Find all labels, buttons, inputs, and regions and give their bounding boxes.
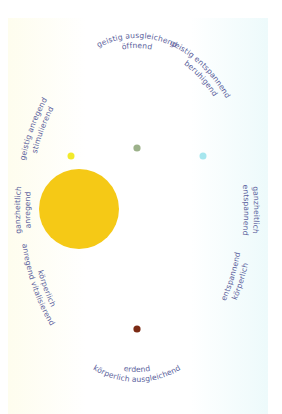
label-left-outer: ganzheitlich bbox=[13, 186, 23, 234]
yellow-dot bbox=[68, 153, 75, 160]
cyan-dot bbox=[200, 153, 207, 160]
svg-text:erdend: erdend bbox=[123, 364, 151, 374]
svg-text:entspannend: entspannend bbox=[241, 184, 251, 236]
svg-text:ganzheitlich: ganzheitlich bbox=[251, 186, 261, 234]
label-right-inner: entspannend bbox=[241, 184, 251, 236]
label-left-inner: anregend bbox=[23, 191, 33, 229]
diagram: geistig ausgleichend öffnend geistig ent… bbox=[0, 0, 282, 414]
svg-text:anregend: anregend bbox=[23, 191, 33, 229]
svg-text:ganzheitlich: ganzheitlich bbox=[13, 186, 23, 234]
green-dot bbox=[133, 144, 140, 151]
label-right-outer: ganzheitlich bbox=[251, 186, 261, 234]
large-yellow-dot bbox=[39, 169, 119, 249]
label-bottom-inner: erdend bbox=[123, 364, 151, 374]
brown-dot bbox=[133, 325, 140, 332]
